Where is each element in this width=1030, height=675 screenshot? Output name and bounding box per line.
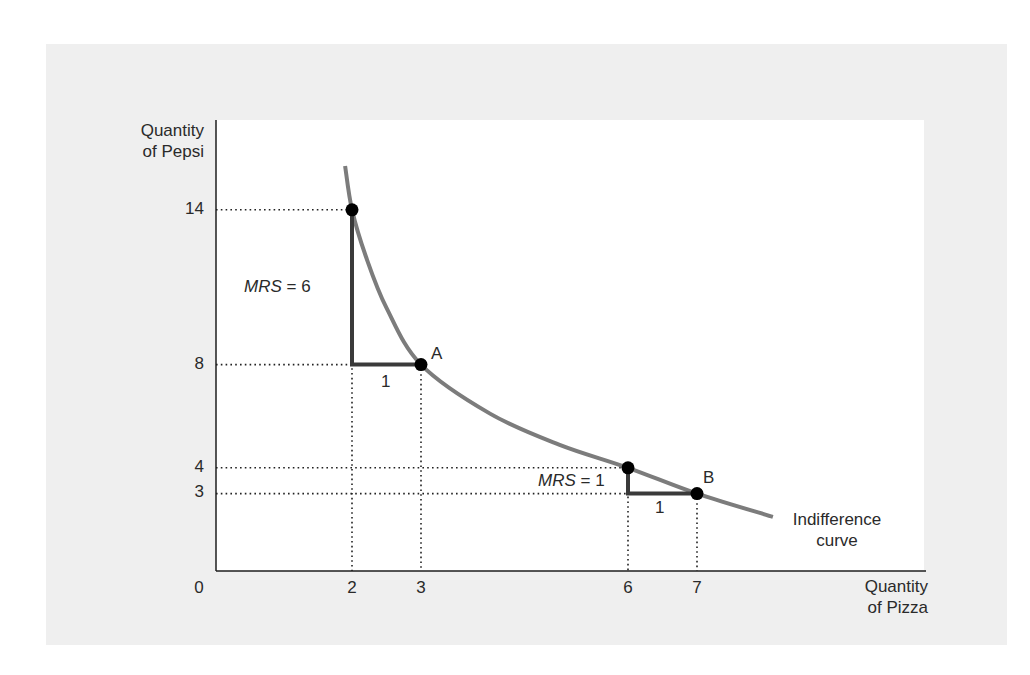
mrs-1-value: = 1 [576,471,605,490]
data-point [346,203,359,216]
indifference-curve-line [345,166,773,517]
marked-points [346,203,704,500]
origin-label: 0 [184,578,214,598]
mrs-1-variable: MRS [538,471,576,490]
point-b-label: B [703,467,714,488]
y-axis-label-line2: of Pepsi [112,141,204,162]
mrs-6-label: MRS = 6 [244,276,311,297]
x-axis-label: Quantity of Pizza [830,576,928,618]
data-point [691,487,704,500]
run-1-label-b: 1 [655,497,664,518]
dotted-guide-lines [216,210,697,571]
mrs-6-value: = 6 [282,277,311,296]
y-axis-label: Quantity of Pepsi [112,120,204,162]
y-axis-label-line1: Quantity [112,120,204,141]
y-tick-14: 14 [164,199,204,219]
y-tick-8: 8 [164,354,204,374]
run-1-label-a: 1 [381,371,390,392]
y-tick-4: 4 [164,457,204,477]
y-tick-3: 3 [164,482,204,502]
curve-label-line2: curve [782,530,892,551]
curve-label: Indifference curve [782,509,892,551]
data-point [622,461,635,474]
x-axis-label-line2: of Pizza [830,597,928,618]
x-tick-3: 3 [406,578,436,598]
x-tick-6: 6 [613,578,643,598]
indifference-chart [0,0,1030,675]
x-axis-label-line1: Quantity [830,576,928,597]
curve-label-line1: Indifference [782,509,892,530]
mrs-6-variable: MRS [244,277,282,296]
data-point [415,358,428,371]
x-tick-2: 2 [337,578,367,598]
slope-triangle [352,210,421,365]
x-tick-7: 7 [682,578,712,598]
mrs-triangles [352,210,697,494]
point-a-label: A [431,343,442,364]
mrs-1-label: MRS = 1 [538,470,605,491]
